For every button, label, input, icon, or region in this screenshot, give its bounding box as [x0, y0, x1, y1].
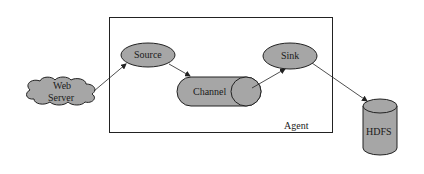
- channel-node: Channel: [177, 77, 261, 106]
- edge-sink-hdfs: [312, 63, 367, 101]
- hdfs-database-icon: HDFS: [363, 99, 397, 155]
- source-node: Source: [121, 43, 175, 67]
- hdfs-label: HDFS: [366, 126, 392, 137]
- source-label: Source: [134, 49, 162, 60]
- web-server-label-1: Web: [53, 80, 71, 91]
- channel-label: Channel: [193, 86, 227, 97]
- edge-source-channel: [169, 64, 190, 76]
- flume-architecture-diagram: Agent Web Server Source Channel Sink HDF…: [0, 0, 424, 174]
- sink-label: Sink: [281, 50, 299, 61]
- edge-channel-sink: [252, 69, 285, 88]
- web-server-label-2: Server: [48, 92, 75, 103]
- agent-label: Agent: [284, 120, 309, 131]
- web-server-cloud-icon: Web Server: [27, 77, 95, 105]
- agent-box: [110, 18, 333, 133]
- sink-node: Sink: [263, 43, 317, 69]
